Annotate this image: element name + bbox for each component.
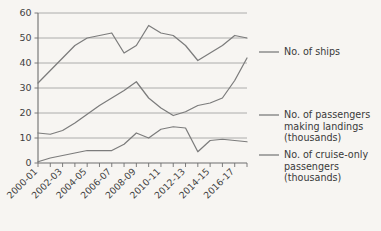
chart-figure: 0102030405060 2000-012002-032004-052006-… [0,0,381,231]
y-tick-label: 10 [19,132,31,143]
series-line-2 [38,127,247,162]
legend-label-2[interactable]: passengers [284,161,339,172]
y-tick-label: 30 [19,82,31,93]
y-tick-label: 20 [19,107,31,118]
x-tickmarks [38,163,247,167]
chart-legend: No. of shipsNo. of passengersmaking land… [259,46,370,183]
legend-label-2[interactable]: (thousands) [284,172,341,183]
y-tick-label: 60 [19,7,31,18]
legend-label-1[interactable]: making landings [284,121,363,132]
data-series-group [38,26,247,162]
y-tick-label: 40 [19,57,31,68]
legend-label-1[interactable]: No. of passengers [284,109,370,120]
legend-label-2[interactable]: No. of cruise-only [284,149,368,160]
series-line-1 [38,58,247,134]
gridlines [38,13,247,138]
legend-label-1[interactable]: (thousands) [284,132,341,143]
series-line-0 [38,26,247,84]
y-tick-label: 50 [19,32,31,43]
x-axis-labels: 2000-012002-032004-052006-072008-092010-… [4,166,236,201]
legend-label-0[interactable]: No. of ships [284,46,340,57]
y-axis-labels: 0102030405060 [19,7,31,168]
line-chart-plot: 0102030405060 2000-012002-032004-052006-… [0,0,381,231]
